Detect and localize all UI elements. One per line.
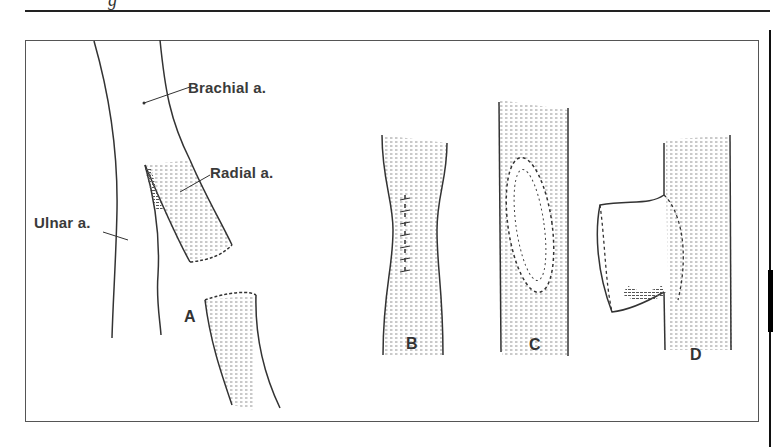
label-ulnar-artery: Ulnar a. bbox=[34, 214, 91, 231]
panel-label-b: B bbox=[406, 335, 418, 353]
panel-label-a: A bbox=[184, 308, 196, 326]
panel-c-illustration bbox=[499, 100, 568, 356]
label-brachial-artery: Brachial a. bbox=[188, 79, 266, 96]
panel-b-illustration bbox=[382, 135, 447, 355]
panel-d-illustration bbox=[597, 135, 732, 350]
figure-illustration bbox=[0, 0, 773, 447]
panel-label-c: C bbox=[529, 336, 541, 354]
panel-label-d: D bbox=[690, 346, 702, 364]
label-radial-artery: Radial a. bbox=[210, 164, 274, 181]
